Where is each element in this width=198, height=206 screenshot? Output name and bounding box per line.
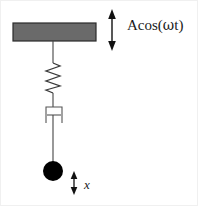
base-excitation-arrow <box>108 9 116 51</box>
forcing-label-suffix: t) <box>174 17 183 33</box>
mechanical-schematic-figure: Acos(ωt) x <box>0 0 198 206</box>
omega-symbol: ω <box>163 17 174 33</box>
forcing-label-prefix: Acos( <box>127 17 163 33</box>
forcing-function-label: Acos(ωt) <box>127 17 183 34</box>
displacement-label: x <box>84 177 90 193</box>
spring-coil <box>46 63 60 93</box>
support-block <box>13 23 96 41</box>
displacement-arrow <box>71 171 78 195</box>
mass-bob <box>43 161 63 181</box>
